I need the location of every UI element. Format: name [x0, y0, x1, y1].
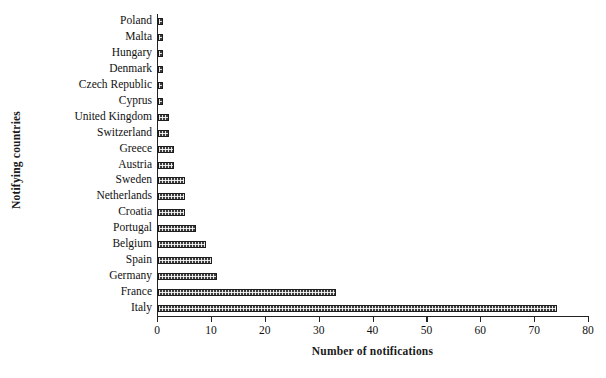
category-label: Spain: [18, 254, 152, 265]
x-axis-tick: [265, 317, 266, 322]
category-label: Austria: [18, 159, 152, 170]
bar: [158, 66, 163, 73]
x-axis-tick-label: 40: [353, 324, 393, 336]
bar: [158, 289, 336, 296]
bar: [158, 162, 174, 169]
bar: [158, 18, 163, 25]
plot-area: 01020304050607080: [157, 14, 588, 316]
bar: [158, 114, 169, 121]
category-label: Sweden: [18, 174, 152, 185]
x-axis-tick-label: 10: [191, 324, 231, 336]
category-label: Switzerland: [18, 127, 152, 138]
x-axis-tick-label: 70: [514, 324, 554, 336]
bar-chart: Notifying countries PolandMaltaHungaryDe…: [0, 0, 606, 378]
x-axis-tick: [480, 317, 481, 322]
x-axis-tick-label: 80: [568, 324, 606, 336]
x-axis-title: Number of notifications: [157, 345, 588, 357]
bar: [158, 82, 163, 89]
category-label: Italy: [18, 302, 152, 313]
x-axis-tick: [373, 317, 374, 322]
bar: [158, 225, 196, 232]
bar: [158, 177, 185, 184]
category-label: Germany: [18, 270, 152, 281]
x-axis-tick: [534, 317, 535, 322]
bar: [158, 34, 163, 41]
bar: [158, 257, 212, 264]
bar: [158, 273, 217, 280]
x-axis-tick-label: 50: [406, 324, 446, 336]
x-axis-tick: [426, 317, 427, 322]
category-label: Cyprus: [18, 95, 152, 106]
bar: [158, 98, 163, 105]
category-label: Greece: [18, 143, 152, 154]
x-axis-tick-label: 30: [299, 324, 339, 336]
category-label: Hungary: [18, 47, 152, 58]
category-label: Croatia: [18, 206, 152, 217]
x-axis-tick: [157, 317, 158, 322]
category-label: Malta: [18, 31, 152, 42]
bar: [158, 305, 557, 312]
bar: [158, 193, 185, 200]
category-label: Netherlands: [18, 190, 152, 201]
x-axis-tick: [588, 317, 589, 322]
x-axis-tick-label: 60: [460, 324, 500, 336]
category-label: Portugal: [18, 222, 152, 233]
category-label: Poland: [18, 15, 152, 26]
x-axis-tick: [319, 317, 320, 322]
x-axis-tick: [211, 317, 212, 322]
category-label: Czech Republic: [18, 79, 152, 90]
bar: [158, 209, 185, 216]
bar: [158, 241, 206, 248]
category-label: Belgium: [18, 238, 152, 249]
category-label: Denmark: [18, 63, 152, 74]
x-axis-tick-label: 20: [245, 324, 285, 336]
bar: [158, 146, 174, 153]
bar: [158, 130, 169, 137]
x-axis-tick-label: 0: [137, 324, 177, 336]
category-axis-labels: PolandMaltaHungaryDenmarkCzech RepublicC…: [18, 14, 152, 316]
bar: [158, 50, 163, 57]
category-label: United Kingdom: [18, 111, 152, 122]
category-label: France: [18, 286, 152, 297]
